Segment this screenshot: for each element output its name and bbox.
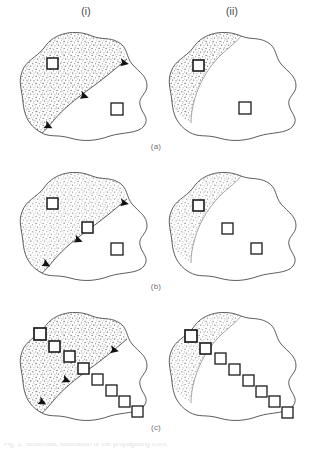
marker-square [200,343,211,354]
panel-b-i [20,172,147,280]
marker-square [111,243,123,255]
column-label-ii: (ii) [212,6,252,17]
blob-shaded-region [20,172,127,273]
marker-square [92,374,103,385]
marker-squares [185,330,293,418]
figure-canvas: (i) (ii) (a) (b) (c) Fig. 1. Schematic i… [0,0,319,451]
panel-c-i [20,312,147,420]
marker-square [49,341,60,352]
marker-square [256,386,267,397]
marker-square [106,385,117,396]
row-label-b: (b) [141,282,171,291]
marker-square [229,364,240,375]
marker-square [82,222,93,233]
panel-a-i [20,32,147,140]
marker-square [239,102,251,114]
marker-square [47,198,58,209]
panel-c-ii [169,312,296,420]
marker-square [34,328,46,340]
panel-a-ii [169,32,296,140]
row-label-c: (c) [141,423,171,432]
blob-shaded-region [169,32,241,123]
column-label-i: (i) [66,6,106,17]
marker-square [119,396,130,407]
bottom-caption: Fig. 1. Schematic illustration of the pr… [4,443,304,450]
marker-square [215,353,226,364]
blob-shaded-region [169,312,241,403]
figure-svg [0,0,319,451]
marker-square [243,375,254,386]
blob-shaded-region [20,32,127,133]
marker-square [111,103,123,115]
marker-square [269,396,280,407]
marker-square [132,406,143,417]
marker-square [282,407,293,418]
row-label-a: (a) [141,142,171,151]
marker-square [222,223,233,234]
marker-square [251,243,262,254]
marker-square [185,330,197,342]
marker-squares [193,60,251,114]
blob-shaded-region [169,172,241,263]
marker-square [64,351,75,362]
panel-b-ii [169,172,296,280]
marker-squares [193,200,262,254]
bottom-caption-text: Fig. 1. Schematic illustration of the pr… [4,443,304,447]
marker-square [47,58,58,69]
marker-square [193,200,204,211]
marker-square [78,363,89,374]
marker-square [193,60,204,71]
